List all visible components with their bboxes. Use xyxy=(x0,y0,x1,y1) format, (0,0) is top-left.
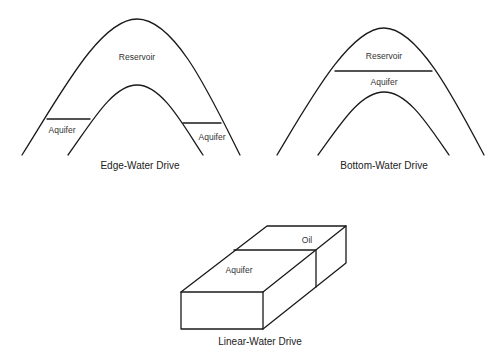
bottom-aquifer-label: Aquifer xyxy=(371,77,398,87)
edge-water-drive-diagram: Reservoir Aquifer Aquifer Edge-Water Dri… xyxy=(22,19,240,171)
edge-right-aquifer-label: Aquifer xyxy=(199,132,226,142)
water-drive-diagrams: Reservoir Aquifer Aquifer Edge-Water Dri… xyxy=(0,0,502,348)
edge-left-aquifer-label: Aquifer xyxy=(49,125,76,135)
linear-oil-label: Oil xyxy=(302,235,313,245)
bottom-outer-arch xyxy=(277,28,484,155)
edge-reservoir-label: Reservoir xyxy=(119,52,156,62)
edge-inner-arch xyxy=(68,85,203,155)
box-front-face xyxy=(181,292,263,329)
bottom-inner-arch xyxy=(318,92,449,155)
linear-water-drive-diagram: Oil Aquifer Linear-Water Drive xyxy=(181,226,346,347)
edge-water-drive-caption: Edge-Water Drive xyxy=(100,160,180,171)
bottom-reservoir-label: Reservoir xyxy=(366,51,403,61)
linear-aquifer-label: Aquifer xyxy=(226,265,253,275)
linear-water-drive-caption: Linear-Water Drive xyxy=(218,336,302,347)
bottom-water-drive-caption: Bottom-Water Drive xyxy=(340,160,428,171)
bottom-water-drive-diagram: Reservoir Aquifer Bottom-Water Drive xyxy=(277,28,484,171)
